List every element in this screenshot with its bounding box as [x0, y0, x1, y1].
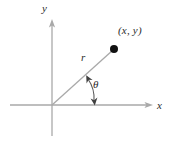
point-marker [110, 45, 118, 53]
polar-coordinate-figure: y x r θ (x, y) [0, 0, 169, 141]
angle-theta-label: θ [93, 79, 98, 90]
radius-label: r [81, 52, 85, 63]
point-coordinates-label: (x, y) [118, 25, 142, 36]
diagram-canvas [0, 0, 169, 141]
x-axis-label: x [157, 100, 162, 111]
y-axis-label: y [42, 3, 47, 14]
